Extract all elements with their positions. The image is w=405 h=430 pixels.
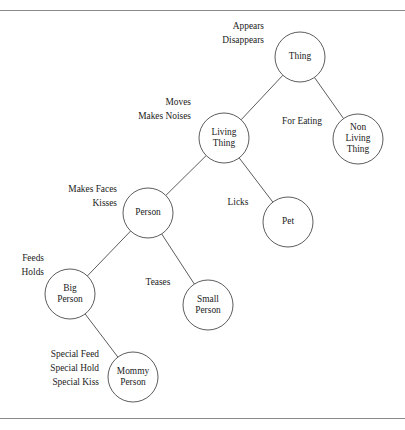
node-label-small-person: SmallPerson: [195, 294, 221, 315]
node-label-mommy-person: MommyPerson: [117, 366, 150, 387]
node-label-thing: Thing: [289, 51, 312, 61]
feature-label-big-person-features: FeedsHolds: [22, 253, 45, 277]
feature-label-mommy-person-features: Special FeedSpecial HoldSpecial Kiss: [50, 349, 99, 387]
edge-thing-living-thing: [241, 75, 283, 120]
node-thing[interactable]: Thing: [275, 32, 325, 82]
node-label-pet: Pet: [282, 216, 294, 226]
edge-person-big-person: [87, 231, 130, 276]
feature-label-person-features: Makes FacesKisses: [68, 184, 117, 208]
node-mommy-person[interactable]: MommyPerson: [108, 352, 158, 402]
edge-living-thing-pet: [239, 158, 273, 202]
node-person[interactable]: Person: [123, 188, 173, 238]
figure-root: ThingLivingThingNonLivingThingPersonPetB…: [0, 0, 405, 430]
node-living-thing[interactable]: LivingThing: [199, 113, 249, 163]
edge-living-thing-person: [166, 156, 206, 196]
feature-label-living-thing-features: MovesMakes Noises: [138, 97, 191, 121]
edge-thing-non-living-thing: [314, 77, 343, 118]
feature-label-small-person-features: Teases: [146, 277, 171, 287]
node-pet[interactable]: Pet: [263, 197, 313, 247]
nodes-layer: ThingLivingThingNonLivingThingPersonPetB…: [45, 32, 383, 402]
node-non-living-thing[interactable]: NonLivingThing: [333, 114, 383, 164]
node-small-person[interactable]: SmallPerson: [183, 280, 233, 330]
feature-label-pet-features: Licks: [228, 197, 249, 207]
hierarchy-diagram-canvas: ThingLivingThingNonLivingThingPersonPetB…: [0, 0, 405, 430]
node-label-person: Person: [135, 207, 161, 217]
feature-label-thing-features: AppearsDisappears: [222, 21, 264, 45]
node-big-person[interactable]: BigPerson: [45, 269, 95, 319]
node-label-living-thing: LivingThing: [212, 127, 237, 148]
feature-label-non-living-thing-features: For Eating: [282, 116, 322, 126]
